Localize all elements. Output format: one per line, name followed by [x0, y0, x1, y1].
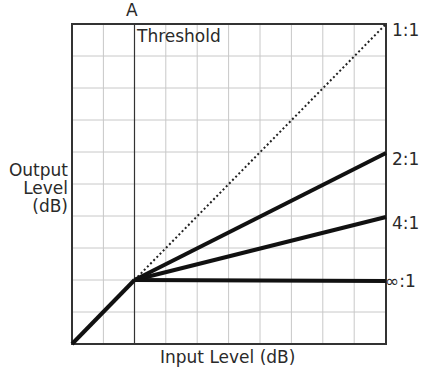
ratio-label-inf-1: ∞:1: [385, 272, 416, 291]
ratio-label-1-1: 1:1: [392, 21, 419, 40]
ratio-inf-1-line: [135, 280, 387, 281]
threshold-label: Threshold: [137, 27, 221, 46]
y-axis-label-line: Output: [4, 161, 68, 179]
y-axis-label-line: Level: [4, 179, 68, 197]
x-axis-label: Input Level (dB): [160, 348, 295, 367]
ratio-label-2-1: 2:1: [392, 150, 419, 169]
ratio-label-4-1: 4:1: [392, 214, 419, 233]
y-axis-label-line: (dB): [4, 197, 68, 215]
threshold-marker-label: A: [126, 1, 138, 20]
y-axis-label: Output Level (dB): [4, 161, 68, 215]
